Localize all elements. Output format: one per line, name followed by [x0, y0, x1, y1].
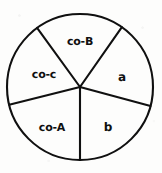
sector-label-b: b: [104, 120, 112, 134]
sector-label-co-b: co-B: [67, 35, 93, 48]
sector-label-co-a: co-A: [39, 121, 65, 134]
sector-label-co-c: co-c: [32, 68, 56, 81]
sector-label-a: a: [118, 70, 126, 84]
pie-chart-svg: [0, 0, 162, 173]
pie-diagram-figure: co-Babco-Aco-c: [0, 0, 162, 173]
